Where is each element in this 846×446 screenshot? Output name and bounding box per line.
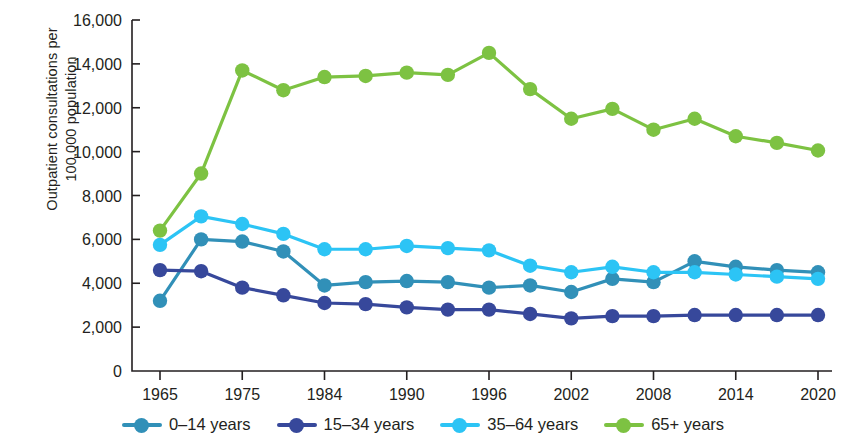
y-axis-tick-label: 10,000 [73,144,122,161]
series-point [194,264,208,278]
series-point [235,280,249,294]
legend-item-35-64: 35–64 years [440,415,578,434]
legend-marker-0-14 [134,418,149,433]
legend-item-0-14: 0–14 years [122,415,251,434]
series-point [441,275,455,289]
line-chart-plot: 02,0004,0006,0008,00010,00012,00014,0001… [0,0,846,410]
y-axis-tick-label: 0 [113,363,122,380]
legend-label-65-plus: 65+ years [651,415,724,434]
x-axis-tick-label: 2020 [800,386,836,403]
series-point [770,269,784,283]
series-point [811,308,825,322]
series-point [441,302,455,316]
series-point [317,70,331,84]
y-axis-tick-label: 8,000 [82,188,122,205]
legend-label-0-14: 0–14 years [169,415,251,434]
series-point [523,278,537,292]
y-axis-tick-label: 16,000 [73,12,122,29]
series-point [770,308,784,322]
y-axis-tick-label: 12,000 [73,100,122,117]
series-point [729,308,743,322]
series-point [687,308,701,322]
series-point [646,122,660,136]
series-point [400,300,414,314]
series-point [523,307,537,321]
legend-label-15-34: 15–34 years [324,415,415,434]
y-axis-tick-label: 6,000 [82,231,122,248]
x-axis-tick-label: 2014 [718,386,754,403]
series-point [482,46,496,60]
series-point [317,296,331,310]
series-point [605,102,619,116]
series-point [523,259,537,273]
series-point [729,129,743,143]
legend-swatch-0-14 [122,417,162,433]
series-point [153,294,167,308]
legend-marker-35-64 [452,418,467,433]
series-point [153,238,167,252]
series-point [235,234,249,248]
series-point [564,112,578,126]
y-axis-tick-label: 2,000 [82,319,122,336]
series-point [358,69,372,83]
series-point [358,242,372,256]
legend-item-15-34: 15–34 years [277,415,415,434]
chart-figure: Outpatient consultations per 100,000 pop… [0,0,846,446]
series-point [194,232,208,246]
series-point [153,223,167,237]
series-point [317,278,331,292]
legend-item-65-plus: 65+ years [604,415,724,434]
series-point [729,267,743,281]
legend-marker-65-plus [616,418,631,433]
legend-swatch-15-34 [277,417,317,433]
series-point [276,83,290,97]
series-point [276,244,290,258]
series-point [605,309,619,323]
series-point [811,143,825,157]
series-point [358,297,372,311]
series-point [564,311,578,325]
series-point [482,280,496,294]
series-point [194,166,208,180]
x-axis-tick-label: 2008 [636,386,672,403]
series-point [194,209,208,223]
series-point [811,272,825,286]
legend-label-35-64: 35–64 years [487,415,578,434]
series-point [153,263,167,277]
series-point [687,112,701,126]
chart-legend: 0–14 years 15–34 years 35–64 years 65+ y… [0,415,846,434]
series-point [770,136,784,150]
series-point [235,217,249,231]
x-axis-tick-label: 1975 [224,386,260,403]
series-point [317,242,331,256]
series-point [482,243,496,257]
y-axis-tick-label: 14,000 [73,56,122,73]
series-point [687,265,701,279]
series-point [564,265,578,279]
series-point [400,239,414,253]
series-line [160,53,818,231]
series-point [482,302,496,316]
series-point [523,82,537,96]
legend-swatch-65-plus [604,417,644,433]
series-point [358,275,372,289]
legend-marker-15-34 [289,418,304,433]
series-point [400,274,414,288]
series-point [400,65,414,79]
series-point [235,63,249,77]
series-point [441,68,455,82]
x-axis-tick-label: 1990 [389,386,425,403]
legend-swatch-35-64 [440,417,480,433]
x-axis-tick-label: 1984 [307,386,343,403]
x-axis-tick-label: 2002 [553,386,589,403]
y-axis-tick-label: 4,000 [82,275,122,292]
series-point [276,288,290,302]
series-point [564,285,578,299]
series-point [646,265,660,279]
series-point [605,260,619,274]
series-point [276,227,290,241]
x-axis-tick-label: 1965 [142,386,178,403]
series-point [441,241,455,255]
x-axis-tick-label: 1996 [471,386,507,403]
series-point [646,309,660,323]
